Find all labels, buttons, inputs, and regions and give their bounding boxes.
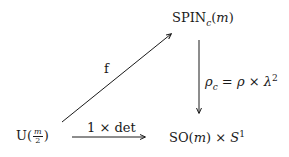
spin-main: SPIN	[172, 10, 206, 25]
spin-close-paren: )	[229, 10, 234, 25]
fraction-denominator: 2	[33, 137, 43, 145]
node-so-times-circle: SO(m) × S1	[169, 131, 245, 144]
unitary-close-paren: )	[44, 128, 49, 143]
times-sign: ×	[245, 74, 264, 89]
spin-arg: m	[216, 10, 228, 25]
so-sphere-sup: 1	[239, 129, 245, 139]
unitary-open-paren: (	[27, 128, 32, 143]
label-f: f	[104, 62, 109, 75]
rho-symbol: ρ	[205, 74, 213, 89]
node-unitary: U(m2)	[16, 128, 49, 145]
arrow-f	[62, 34, 171, 122]
lambda-symbol: λ	[264, 74, 272, 89]
unitary-fraction: m2	[33, 128, 43, 145]
rho-symbol-2: ρ	[237, 74, 245, 89]
label-rho-c: ρc = ρ × λ2	[205, 75, 278, 88]
equals-sign: =	[218, 74, 237, 89]
node-spin-c: SPINc(m)	[172, 11, 234, 24]
so-sphere: S	[230, 130, 239, 145]
lambda-sup: 2	[272, 73, 278, 83]
unitary-main: U	[16, 128, 27, 143]
so-times: ×	[211, 130, 230, 145]
label-one-det: 1 × det	[87, 121, 136, 134]
so-arg: m	[194, 130, 206, 145]
so-main: SO	[169, 130, 189, 145]
